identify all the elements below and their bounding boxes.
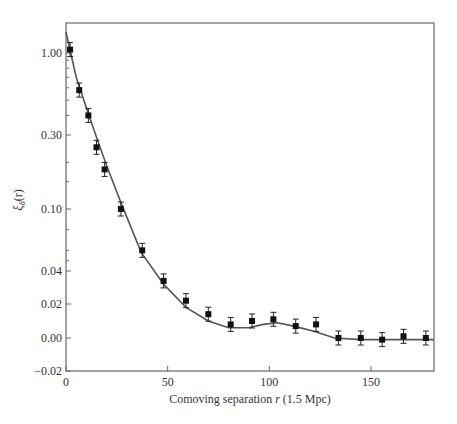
x-tick-label: 50	[162, 375, 174, 389]
data-point-marker	[249, 318, 255, 324]
data-point-marker	[335, 335, 341, 341]
data-point-marker	[161, 278, 167, 284]
model-curve	[66, 32, 434, 340]
data-point-marker	[183, 298, 189, 304]
x-tick-label: 100	[260, 375, 278, 389]
y-tick-label: −0.02	[34, 364, 62, 378]
data-point-marker	[93, 144, 99, 150]
y-tick-label: 0.30	[41, 128, 62, 142]
x-axis-ticks: 050100150	[63, 366, 380, 389]
data-point-marker	[67, 47, 73, 53]
y-tick-label: 0.04	[41, 264, 62, 278]
data-point-marker	[139, 247, 145, 253]
x-tick-label: 0	[63, 375, 69, 389]
data-point-marker	[358, 335, 364, 341]
data-point-marker	[76, 87, 82, 93]
x-axis-label: Comoving separation r (1.5 Mpc)	[169, 392, 331, 406]
data-point-marker	[423, 335, 429, 341]
data-point-marker	[102, 166, 108, 172]
data-point-marker	[118, 206, 124, 212]
x-tick-label: 150	[362, 375, 380, 389]
y-tick-label: 0.02	[41, 297, 62, 311]
y-tick-label: 0.00	[41, 331, 62, 345]
y-tick-label: 1.00	[41, 46, 62, 60]
data-point-marker	[293, 323, 299, 329]
data-point-marker	[401, 333, 407, 339]
data-point-marker	[379, 337, 385, 343]
data-point-marker	[270, 316, 276, 322]
data-point-marker	[228, 321, 234, 327]
data-point-marker	[85, 112, 91, 118]
data-points	[67, 43, 429, 347]
y-tick-label: 0.10	[41, 202, 62, 216]
data-point-marker	[313, 321, 319, 327]
y-axis-label: ξδ(r)	[11, 189, 27, 210]
data-point-marker	[205, 311, 211, 317]
correlation-function-chart: 1.000.300.100.040.020.00−0.02 050100150 …	[0, 0, 457, 424]
